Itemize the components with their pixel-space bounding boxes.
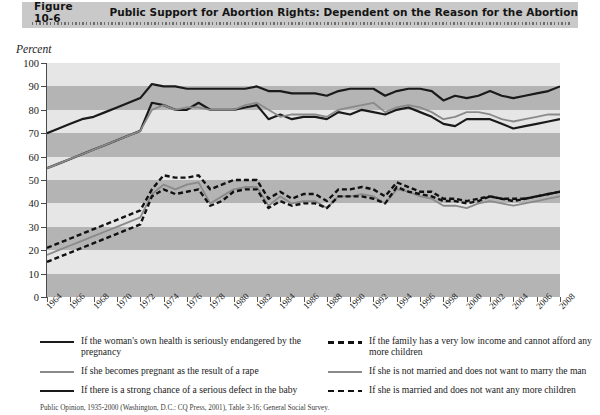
y-axis-label: Percent [16,43,51,55]
legend-swatch [328,338,362,347]
legend-swatch [328,368,362,377]
legend-item: If there is a strong chance of a serious… [40,384,315,396]
chart-lines [47,63,560,297]
legend-label: If she is not married and does not want … [369,365,586,376]
y-axis-tick-mark [41,133,47,134]
legend-line-gray-icon [40,371,74,373]
legend-item: If she is not married and does not want … [328,365,592,377]
legend-line-solid-icon [40,390,74,392]
legend-label: If she is married and does not want any … [369,384,576,395]
y-axis-tick-label: 100 [13,58,39,69]
legend-line-solid-icon [40,341,74,343]
y-axis-tick-label: 80 [13,104,39,115]
legend-swatch [40,387,74,396]
chart-series-line [47,84,560,133]
y-axis-tick-label: 30 [13,221,39,232]
y-axis-tick-label: 50 [13,175,39,186]
y-axis-tick-mark [41,110,47,111]
y-axis-tick-label: 40 [13,198,39,209]
legend-swatch [328,387,362,396]
legend-label: If she becomes pregnant as the result of… [81,365,259,376]
y-axis-tick-mark [41,227,47,228]
chart-series-line [47,175,560,248]
legend-item: If she becomes pregnant as the result of… [40,365,315,377]
y-axis-tick-mark [41,86,47,87]
legend-line-gray-icon [328,371,362,373]
chart-series-line [47,103,560,169]
legend-label: If the family has a very low income and … [369,335,592,358]
chart-container: Percent 0102030405060708090100 196419661… [0,0,600,330]
y-axis-tick-label: 60 [13,151,39,162]
y-axis-tick-mark [41,157,47,158]
y-axis-tick-label: 70 [13,128,39,139]
legend-item: If the family has a very low income and … [328,335,592,358]
legend-swatch [40,338,74,347]
y-axis-tick-mark [41,250,47,251]
y-axis-tick-label: 10 [13,268,39,279]
legend-swatch [40,368,74,377]
legend-item: If she is married and does not want any … [328,384,592,396]
chart-legend: If the woman's own health is seriously e… [40,335,592,397]
y-axis-tick-label: 0 [13,292,39,303]
legend-line-dashed-icon [328,390,362,393]
legend-column-right: If the family has a very low income and … [328,335,592,403]
y-axis-tick-mark [41,180,47,181]
y-axis-tick-mark [41,63,47,64]
legend-column-left: If the woman's own health is seriously e… [40,335,315,403]
y-axis-tick-mark [41,274,47,275]
y-axis-tick-mark [41,203,47,204]
legend-label: If the woman's own health is seriously e… [81,335,315,358]
legend-line-dashed-icon [328,341,362,344]
y-axis-tick-label: 90 [13,81,39,92]
y-axis-tick-label: 20 [13,245,39,256]
source-note: Public Opinion, 1935-2000 (Washington, D… [40,404,596,413]
legend-item: If the woman's own health is seriously e… [40,335,315,358]
legend-label: If there is a strong chance of a serious… [81,384,297,395]
plot-area [47,63,560,297]
